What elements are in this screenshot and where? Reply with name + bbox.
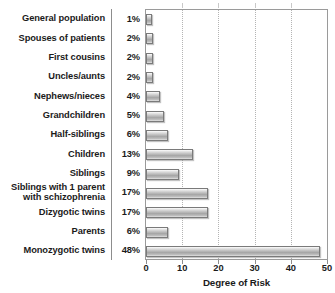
bar-slot	[146, 49, 327, 68]
value-label: 6%	[127, 226, 140, 236]
category-label-row: Dizygotic twins	[0, 202, 111, 221]
bars-layer	[146, 10, 327, 259]
category-label: General population	[22, 13, 105, 23]
bar-slot	[146, 145, 327, 164]
bar[interactable]	[146, 33, 153, 44]
category-label-row: Nephews/nieces	[0, 86, 111, 105]
value-label-row: 9%	[113, 163, 143, 182]
x-axis-title: Degree of Risk	[145, 277, 328, 288]
bar-slot	[146, 126, 327, 145]
bar-slot	[146, 203, 327, 222]
top-axis-tick	[218, 3, 219, 8]
category-label: Nephews/nieces	[34, 91, 105, 101]
value-label: 17%	[122, 207, 140, 217]
value-label: 17%	[122, 187, 140, 197]
value-label-row: 4%	[113, 86, 143, 105]
value-label: 2%	[127, 52, 140, 62]
bar-slot	[146, 242, 327, 261]
category-label: Siblings	[70, 168, 105, 178]
bar-slot	[146, 29, 327, 48]
bar[interactable]	[146, 227, 168, 238]
category-label: Spouses of patients	[19, 33, 105, 43]
plot-area	[145, 9, 328, 260]
category-label-row: Uncles/aunts	[0, 67, 111, 86]
x-axis-tick-label: 10	[177, 263, 187, 273]
bar[interactable]	[146, 207, 208, 218]
value-label-column: 1%2%2%2%4%5%6%13%9%17%17%6%48%	[113, 9, 143, 262]
category-label-row: Parents	[0, 221, 111, 240]
bar[interactable]	[146, 53, 153, 64]
category-label-column: General populationSpouses of patientsFir…	[0, 9, 111, 262]
x-axis-tick-label: 30	[249, 263, 259, 273]
bar[interactable]	[146, 14, 152, 25]
category-label-row: Children	[0, 144, 111, 163]
label-value-divider	[111, 9, 112, 260]
value-label-row: 2%	[113, 28, 143, 47]
value-label: 4%	[127, 91, 140, 101]
value-label: 2%	[127, 72, 140, 82]
bar-slot	[146, 164, 327, 183]
bar-slot	[146, 184, 327, 203]
x-axis-tick-labels: 01020304050	[145, 263, 328, 276]
category-label: Siblings with 1 parent with schizophreni…	[11, 182, 105, 203]
category-label: Uncles/aunts	[48, 71, 105, 81]
value-label-row: 6%	[113, 125, 143, 144]
category-label: Dizygotic twins	[39, 207, 105, 217]
bar[interactable]	[146, 130, 168, 141]
value-label-row: 6%	[113, 221, 143, 240]
bar-slot	[146, 10, 327, 29]
top-axis-tick	[182, 3, 183, 8]
category-label: Half-siblings	[51, 129, 106, 139]
bar[interactable]	[146, 188, 208, 199]
value-label-row: 2%	[113, 48, 143, 67]
bar-slot	[146, 107, 327, 126]
category-label-row: Siblings with 1 parent with schizophreni…	[0, 183, 111, 202]
x-axis-tick-label: 40	[286, 263, 296, 273]
value-label-row: 1%	[113, 9, 143, 28]
bar[interactable]	[146, 72, 153, 83]
x-axis-tick-label: 50	[322, 263, 332, 273]
bar[interactable]	[146, 111, 164, 122]
bar[interactable]	[146, 246, 320, 257]
value-label-row: 13%	[113, 144, 143, 163]
value-label: 6%	[127, 129, 140, 139]
value-label-row: 48%	[113, 241, 143, 260]
bar[interactable]	[146, 169, 179, 180]
category-label-row: General population	[0, 9, 111, 28]
value-label: 9%	[127, 168, 140, 178]
bar-slot	[146, 68, 327, 87]
bar-slot	[146, 222, 327, 241]
category-label-row: First cousins	[0, 48, 111, 67]
bar-slot	[146, 87, 327, 106]
value-label: 48%	[122, 245, 140, 255]
category-label: Monozygotic twins	[24, 245, 105, 255]
value-label-row: 5%	[113, 106, 143, 125]
risk-bar-chart: General populationSpouses of patientsFir…	[0, 0, 335, 293]
x-axis-tick-label: 0	[143, 263, 148, 273]
value-label-row: 17%	[113, 183, 143, 202]
category-label: Parents	[72, 226, 105, 236]
x-axis-tick-label: 20	[213, 263, 223, 273]
category-label-row: Spouses of patients	[0, 28, 111, 47]
category-label: Children	[68, 149, 105, 159]
value-label: 2%	[127, 33, 140, 43]
value-label: 1%	[127, 14, 140, 24]
category-label-row: Siblings	[0, 163, 111, 182]
category-label: First cousins	[48, 52, 105, 62]
bar[interactable]	[146, 91, 160, 102]
value-label-row: 17%	[113, 202, 143, 221]
category-label-row: Half-siblings	[0, 125, 111, 144]
category-label-row: Grandchildren	[0, 106, 111, 125]
category-label-row: Monozygotic twins	[0, 241, 111, 260]
value-label-row: 2%	[113, 67, 143, 86]
category-label: Grandchildren	[43, 110, 105, 120]
value-label: 5%	[127, 110, 140, 120]
top-axis-tick	[291, 3, 292, 8]
value-label: 13%	[122, 149, 140, 159]
bar[interactable]	[146, 149, 193, 160]
top-axis-tick	[255, 3, 256, 8]
